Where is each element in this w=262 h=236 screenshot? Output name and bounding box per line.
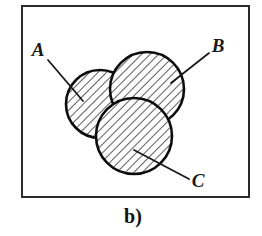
set-label-a: A	[31, 39, 45, 60]
set-label-b: B	[211, 35, 225, 56]
set-label-c: C	[192, 170, 205, 191]
venn-diagram-figure: A B C b)	[0, 0, 262, 236]
set-circle-c	[96, 98, 172, 174]
figure-caption: b)	[124, 205, 142, 228]
figure-page: A B C b)	[0, 0, 262, 236]
